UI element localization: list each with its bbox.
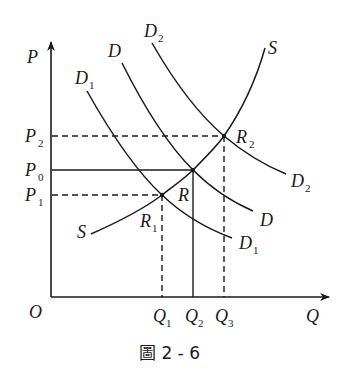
svg-text:Q: Q [185,306,198,326]
demand-label-d1-top: D 1 [74,68,95,91]
origin-label: O [29,302,42,322]
svg-text:D: D [290,171,304,191]
quantity-label-q1: Q 1 [153,306,172,329]
svg-text:D: D [74,68,88,88]
svg-text:1: 1 [253,244,259,256]
quantity-label-q3: Q 3 [215,306,234,329]
price-label-p0: P 0 [24,160,44,183]
svg-text:2: 2 [158,32,164,44]
equilibrium-label-r1: R 1 [139,211,158,234]
price-label-p2: P 2 [24,126,44,149]
supply-demand-diagram: P Q O P 2 P 0 P 1 Q 1 Q 2 Q 3 S [0,0,349,381]
svg-text:1: 1 [89,79,95,91]
supply-label-top: S [268,38,277,58]
demand-label-d2-bottom: D 2 [290,171,311,194]
svg-text:1: 1 [166,317,172,329]
equilibrium-label-r2: R 2 [235,127,255,150]
equilibrium-point-r1 [160,193,164,197]
svg-text:2: 2 [198,317,204,329]
demand-label-d-top: D [107,41,121,61]
figure-caption: 圖 2 - 6 [139,343,200,363]
equilibrium-point-r [191,168,195,172]
svg-text:1: 1 [38,196,44,208]
svg-text:P: P [24,126,36,146]
quantity-label-q2: Q 2 [185,306,204,329]
svg-text:D: D [143,21,157,41]
svg-text:P: P [24,160,36,180]
equilibrium-point-r2 [222,134,226,138]
demand-curve-d1 [87,91,232,238]
y-axis-label: P [26,47,38,67]
svg-text:0: 0 [38,171,44,183]
equilibrium-label-r: R [177,185,189,205]
x-axis-label: Q [306,306,319,326]
svg-text:R: R [235,127,247,147]
svg-text:Q: Q [153,306,166,326]
demand-label-d2-top: D 2 [143,21,164,44]
price-label-p1: P 1 [24,185,44,208]
demand-curve-d2 [152,43,286,174]
svg-text:2: 2 [305,182,311,194]
demand-label-d1-bottom: D 1 [238,233,259,256]
svg-text:Q: Q [215,306,228,326]
supply-label-bottom: S [77,222,86,242]
svg-text:3: 3 [228,317,234,329]
demand-label-d-bottom: D [259,210,273,230]
svg-text:2: 2 [38,137,44,149]
svg-text:1: 1 [152,222,158,234]
svg-text:R: R [139,211,151,231]
svg-text:P: P [24,185,36,205]
svg-text:2: 2 [249,138,255,150]
svg-text:D: D [238,233,252,253]
